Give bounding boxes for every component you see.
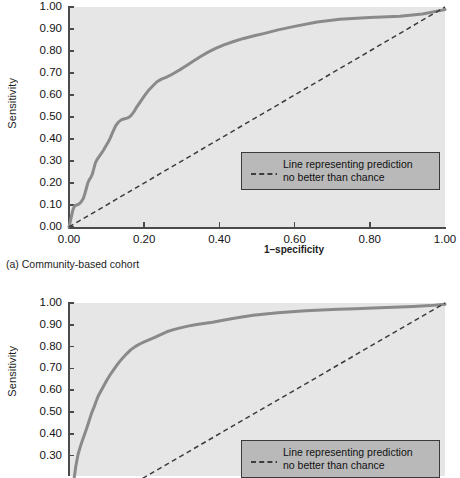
roc-curve: [69, 10, 445, 227]
panel-caption-a: (a) Community-based cohort: [6, 258, 139, 270]
legend-label-a: Line representing prediction no better t…: [283, 158, 413, 183]
legend-label-b: Line representing prediction no better t…: [283, 446, 413, 471]
legend-a: Line representing prediction no better t…: [241, 152, 440, 190]
dashed-line-swatch: [251, 453, 277, 463]
dashed-line-swatch: [251, 165, 277, 175]
x-tick-label: 1.00: [434, 234, 456, 246]
legend-b: Line representing prediction no better t…: [241, 440, 440, 478]
roc-panel-b: Sensitivity 0.300.400.500.600.700.800.90…: [0, 288, 460, 476]
x-tick-label: 0.40: [208, 234, 230, 246]
x-tick-label: 0.80: [359, 234, 381, 246]
x-axis-title-a: 1–specificity: [264, 244, 324, 255]
x-tick-label: 0.00: [58, 234, 80, 246]
roc-curves-a: [0, 0, 460, 240]
x-tick-label: 0.20: [133, 234, 155, 246]
roc-panel-a: Sensitivity 0.000.100.200.300.400.500.60…: [0, 0, 460, 268]
